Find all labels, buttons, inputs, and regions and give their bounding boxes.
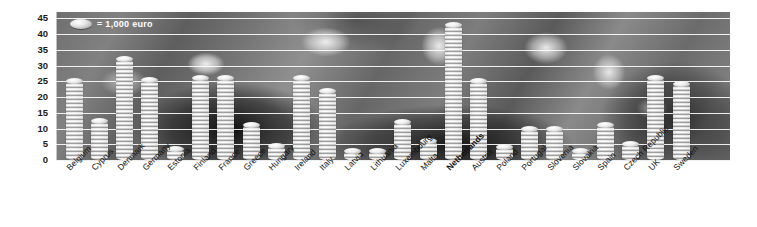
x-axis-label: Malta <box>419 151 440 172</box>
x-axis-label: UK <box>647 158 661 172</box>
x-axis-label: Finland <box>192 146 218 172</box>
x-axis-label: Poland <box>495 147 520 172</box>
x-axis-label: Slovakia <box>571 143 600 172</box>
x-axis-label: Spain <box>596 151 617 172</box>
x-axis-labels: BelgiumCyprusDenmarkGermanyEstoniaFinlan… <box>0 0 757 227</box>
x-axis-label: Lithuania <box>369 142 399 172</box>
x-axis-label: Ireland <box>293 148 317 172</box>
x-axis-label: Slovenia <box>546 143 575 172</box>
x-axis-label: Cyprus <box>90 147 115 172</box>
x-axis-label: Belgium <box>65 144 93 172</box>
x-axis-label: Sweden <box>672 144 700 172</box>
x-axis-label: Denmark <box>116 142 146 172</box>
x-axis-label: Portugal <box>520 144 548 172</box>
chart-figure: 051015202530354045 = 1,000 euro BelgiumC… <box>0 0 757 227</box>
x-axis-label: France <box>217 147 242 172</box>
x-axis-label: Estonia <box>166 146 192 172</box>
x-axis-label: Hungary <box>267 143 296 172</box>
x-axis-label: Latvia <box>343 150 365 172</box>
x-axis-label: Greece <box>242 146 268 172</box>
x-axis-label: Austria <box>470 147 495 172</box>
x-axis-label: Italy <box>318 155 335 172</box>
